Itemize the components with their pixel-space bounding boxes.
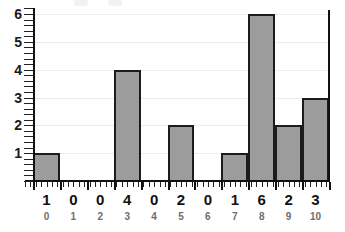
y-minor-tick xyxy=(24,20,33,21)
x-axis-value-label: 1 xyxy=(221,192,248,207)
x-axis-category-label: 2 xyxy=(87,212,114,222)
bar xyxy=(114,70,141,182)
y-axis-tick-label: 2 xyxy=(0,118,22,132)
x-major-tick xyxy=(302,182,304,190)
y-minor-tick xyxy=(24,81,33,82)
x-axis-category-label: 4 xyxy=(141,212,168,222)
bar xyxy=(168,125,194,182)
bar xyxy=(221,153,248,182)
y-minor-tick xyxy=(24,103,33,104)
top-artifact-right xyxy=(108,0,122,6)
y-minor-tick xyxy=(24,153,33,154)
y-minor-tick xyxy=(24,92,33,93)
x-major-tick xyxy=(329,182,331,190)
right-axis-line xyxy=(328,10,330,182)
bar xyxy=(248,14,275,182)
y-minor-tick xyxy=(24,8,33,9)
x-axis-value-label: 2 xyxy=(168,192,195,207)
y-minor-tick xyxy=(24,47,33,48)
x-axis-value-label: 2 xyxy=(275,192,302,207)
x-axis-category-label: 5 xyxy=(168,212,195,222)
x-major-tick xyxy=(60,182,62,190)
gridline xyxy=(33,70,329,71)
y-minor-tick xyxy=(24,98,33,99)
y-minor-tick xyxy=(24,136,33,137)
x-axis-category-labels: 012345678910 xyxy=(33,212,329,222)
x-axis-value-label: 6 xyxy=(248,192,275,207)
y-minor-tick xyxy=(24,109,33,110)
y-minor-tick xyxy=(24,31,33,32)
x-axis-category-label: 6 xyxy=(194,212,221,222)
y-minor-tick xyxy=(24,53,33,54)
y-axis-tick-label: 6 xyxy=(0,7,22,21)
y-minor-tick xyxy=(24,159,33,160)
x-axis-category-label: 10 xyxy=(302,212,329,222)
bar xyxy=(33,153,60,182)
x-axis-value-label: 4 xyxy=(114,192,141,207)
x-axis-category-label: 3 xyxy=(114,212,141,222)
bar-chart: 123456 10040201623 012345678910 xyxy=(0,0,345,232)
y-minor-tick xyxy=(24,142,33,143)
y-minor-tick xyxy=(24,14,33,15)
x-major-tick xyxy=(168,182,170,190)
bar xyxy=(302,98,329,183)
y-minor-tick xyxy=(24,64,33,65)
y-minor-tick xyxy=(24,59,33,60)
x-major-tick xyxy=(248,182,250,190)
x-axis-category-label: 8 xyxy=(248,212,275,222)
y-minor-tick xyxy=(24,131,33,132)
x-axis-value-label: 0 xyxy=(87,192,114,207)
y-minor-tick xyxy=(24,75,33,76)
y-axis-tick-label: 3 xyxy=(0,91,22,105)
gridline xyxy=(33,42,329,43)
x-major-tick xyxy=(87,182,89,190)
x-axis-category-label: 0 xyxy=(33,212,60,222)
y-minor-tick xyxy=(24,164,33,165)
x-major-tick xyxy=(221,182,223,190)
y-minor-tick xyxy=(24,114,33,115)
plot-area xyxy=(33,8,329,181)
x-axis-category-label: 1 xyxy=(60,212,87,222)
y-minor-tick xyxy=(24,42,33,43)
y-minor-tick xyxy=(24,70,33,71)
x-axis-major-ticks xyxy=(25,182,330,190)
y-minor-tick xyxy=(24,120,33,121)
x-axis-category-label: 7 xyxy=(221,212,248,222)
y-axis-tick-label: 5 xyxy=(0,35,22,49)
x-axis-value-label: 1 xyxy=(33,192,60,207)
y-minor-tick xyxy=(24,86,33,87)
y-axis-tick-labels: 123456 xyxy=(0,0,22,232)
x-axis-value-label: 0 xyxy=(141,192,168,207)
x-major-tick xyxy=(141,182,143,190)
x-major-tick xyxy=(194,182,196,190)
x-axis-value-labels: 10040201623 xyxy=(33,192,329,207)
y-minor-tick xyxy=(24,25,33,26)
gridline xyxy=(33,14,329,15)
y-minor-tick xyxy=(24,170,33,171)
x-major-tick xyxy=(114,182,116,190)
x-major-tick xyxy=(275,182,277,190)
gridline xyxy=(33,98,329,99)
y-minor-tick xyxy=(24,36,33,37)
y-axis-line xyxy=(33,8,35,182)
x-axis-value-label: 0 xyxy=(194,192,221,207)
y-axis-tick-label: 1 xyxy=(0,146,22,160)
y-minor-tick xyxy=(24,125,33,126)
x-major-tick xyxy=(33,182,35,190)
y-axis-tick-label: 4 xyxy=(0,63,22,77)
y-axis-minor-ticks xyxy=(24,8,33,182)
x-axis-value-label: 3 xyxy=(302,192,329,207)
y-minor-tick xyxy=(24,175,33,176)
x-axis-category-label: 9 xyxy=(275,212,302,222)
y-minor-tick xyxy=(24,148,33,149)
x-axis-value-label: 0 xyxy=(60,192,87,207)
bar xyxy=(275,125,302,182)
top-artifact-left xyxy=(74,0,88,6)
